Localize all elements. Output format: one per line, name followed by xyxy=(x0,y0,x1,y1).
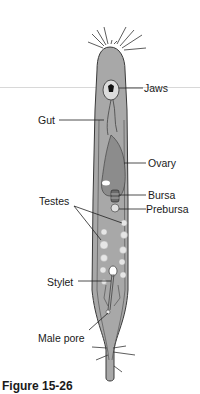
head-cilia xyxy=(88,27,146,50)
label-prebursa: Prebursa xyxy=(146,203,189,215)
label-male-pore: Male pore xyxy=(38,332,85,344)
label-bursa: Bursa xyxy=(148,189,175,201)
label-ovary: Ovary xyxy=(148,157,176,169)
figure-caption: Figure 15-26 xyxy=(2,379,73,393)
bursa xyxy=(111,190,119,202)
label-stylet: Stylet xyxy=(47,276,73,288)
label-jaws: Jaws xyxy=(144,82,168,94)
prebursa xyxy=(111,204,119,212)
label-testes: Testes xyxy=(39,195,69,207)
label-gut: Gut xyxy=(38,114,55,126)
